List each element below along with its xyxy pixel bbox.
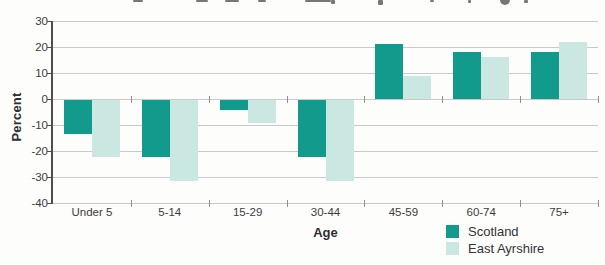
title-fragment: [331, 0, 335, 4]
y-tick-label: -40: [14, 196, 48, 210]
axis-tick-mark: [209, 96, 210, 103]
legend: Scotland East Ayrshire: [446, 224, 544, 258]
y-tick-label: 10: [14, 66, 48, 80]
y-axis-tick-labels: 3020100-10-20-30-40: [14, 21, 48, 204]
bar-scotland-15-29: [220, 100, 248, 110]
x-tick-label-15-29: 15-29: [209, 206, 287, 219]
bar-scotland-5-14: [142, 100, 170, 157]
legend-label: East Ayrshire: [468, 241, 544, 256]
axis-tick-mark: [520, 96, 521, 103]
y-tick-label: 20: [14, 40, 48, 54]
y-axis-line: [51, 21, 53, 204]
bar-scotland-75: [531, 52, 559, 99]
axis-tick-mark: [598, 96, 599, 103]
title-fragment: [305, 0, 331, 2]
x-tick-label-under-5: Under 5: [53, 206, 131, 219]
title-fragment: [468, 0, 471, 3]
bar-east-ayrshire-30-44: [326, 100, 354, 181]
title-fragment: [196, 0, 208, 2]
y-tick-label: 0: [14, 92, 48, 106]
bar-east-ayrshire-5-14: [170, 100, 198, 181]
y-tick-label: -10: [14, 118, 48, 132]
axis-tick-mark: [287, 96, 288, 103]
bar-east-ayrshire-under-5: [92, 100, 120, 157]
bar-east-ayrshire-15-29: [248, 100, 276, 123]
x-tick-label-5-14: 5-14: [131, 206, 209, 219]
x-tick-label-30-44: 30-44: [287, 206, 365, 219]
bar-east-ayrshire-60-74: [481, 57, 509, 99]
bar-scotland-30-44: [298, 100, 326, 157]
axis-tick-mark: [598, 200, 599, 207]
gridline-10: [53, 73, 598, 74]
y-tick-label: 30: [14, 14, 48, 28]
x-tick-label-75: 75+: [520, 206, 598, 219]
bar-chart-figure: Percent 3020100-10-20-30-40 Under 55-141…: [0, 0, 605, 265]
axis-tick-mark: [131, 96, 132, 103]
title-fragment: [258, 0, 266, 2]
bar-scotland-60-74: [453, 52, 481, 99]
y-tick-label: -30: [14, 170, 48, 184]
legend-label: Scotland: [468, 224, 519, 239]
gridline-30: [53, 21, 598, 22]
title-fragment: [133, 0, 143, 2]
axis-tick-mark: [364, 96, 365, 103]
title-fragment: [225, 0, 239, 2]
axis-tick-mark: [442, 96, 443, 103]
bar-scotland-45-59: [375, 44, 403, 99]
bar-east-ayrshire-75: [559, 42, 587, 99]
legend-item-east-ayrshire: East Ayrshire: [446, 241, 544, 255]
scotland-color-swatch: [446, 225, 459, 238]
x-tick-label-60-74: 60-74: [442, 206, 520, 219]
gridline-20: [53, 47, 598, 48]
title-fragment: [524, 0, 528, 3]
bar-east-ayrshire-45-59: [403, 76, 431, 99]
east-ayrshire-color-swatch: [446, 242, 459, 255]
plot-area: [53, 21, 598, 203]
bar-scotland-under-5: [64, 100, 92, 134]
title-fragment: [500, 0, 510, 5]
y-tick-label: -20: [14, 144, 48, 158]
title-fragment: [378, 0, 383, 5]
title-fragment: [430, 0, 434, 2]
gridline--40: [53, 203, 598, 204]
x-tick-label-45-59: 45-59: [364, 206, 442, 219]
x-axis-tick-labels: Under 55-1415-2930-4445-5960-7475+: [53, 206, 598, 220]
legend-item-scotland: Scotland: [446, 224, 544, 238]
